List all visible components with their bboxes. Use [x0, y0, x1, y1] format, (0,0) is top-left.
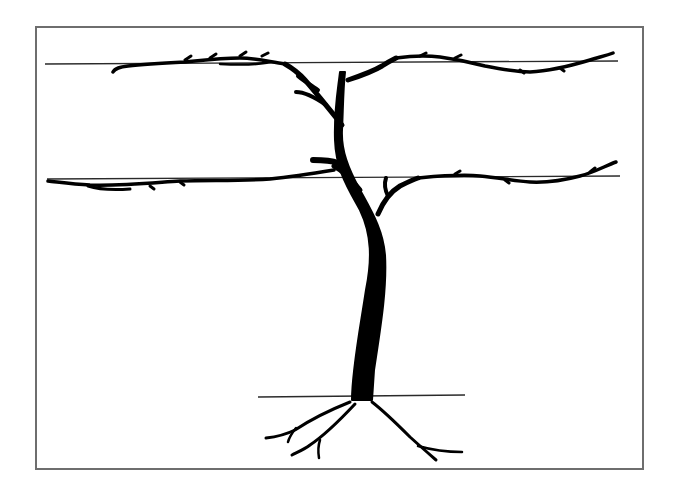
vine-trellis-diagram [0, 0, 683, 491]
